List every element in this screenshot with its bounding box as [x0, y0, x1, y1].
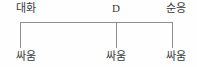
top-node-label-1: 대화 — [16, 2, 36, 14]
connector-vertical-right — [172, 22, 173, 48]
connector-horizontal-bar — [20, 22, 173, 23]
connector-vertical-left — [20, 22, 21, 48]
bottom-node-label-1: 싸움 — [16, 50, 36, 62]
bottom-node-label-3: 싸움 — [166, 50, 186, 62]
connector-vertical-middle — [116, 22, 117, 48]
top-node-label-3: 순응 — [166, 2, 186, 14]
bottom-node-label-2: 싸움 — [106, 50, 126, 62]
top-node-label-2: D — [112, 2, 120, 14]
tree-diagram: 대화 D 순응 싸움 싸움 싸움 — [0, 0, 197, 67]
